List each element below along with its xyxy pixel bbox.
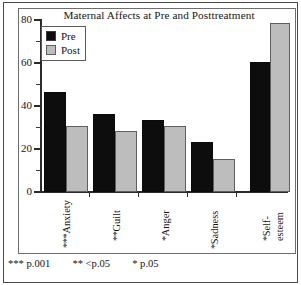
legend-label-pre: Pre (61, 31, 76, 42)
legend-label-post: Post (61, 45, 80, 56)
footnote-item-p05-double: ** <p.05 (72, 258, 110, 269)
legend-swatch-pre-icon (46, 31, 56, 41)
chart-footnote: *** p.001** <p.05* p.05 (8, 258, 288, 269)
legend-swatch-post-icon (46, 45, 56, 55)
legend-entry-pre: Pre (46, 29, 80, 43)
footnote-item-p05-single: * p.05 (132, 258, 158, 269)
footnote-item-p001: *** p.001 (8, 258, 50, 269)
chart-legend: Pre Post (41, 26, 86, 61)
chart-title: Maternal Affects at Pre and Posttreatmen… (34, 9, 284, 21)
legend-entry-post: Post (46, 43, 80, 57)
